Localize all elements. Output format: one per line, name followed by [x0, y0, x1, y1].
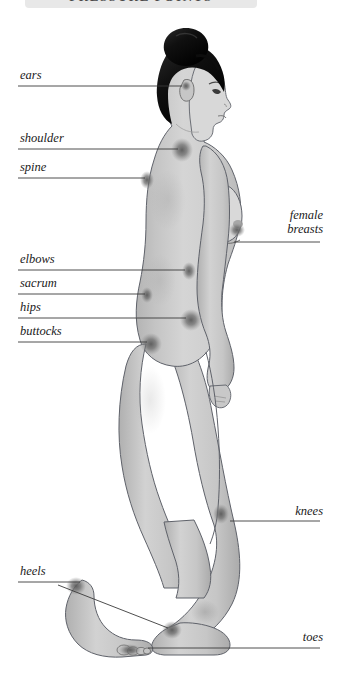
label-hips: hips	[20, 300, 41, 314]
female-figure-illustration: g[data-name="pressure-point-marks"] elli…	[0, 0, 337, 690]
point-elbow	[182, 262, 196, 280]
point-toes	[119, 644, 141, 656]
label-shoulder: shoulder	[20, 131, 64, 145]
figure-body-group: g[data-name="pressure-point-marks"] elli…	[66, 28, 246, 657]
rear-ankle-shade	[191, 600, 219, 624]
pressure-points-illustration-page: PRESSURE POINTS	[0, 0, 337, 690]
label-sacrum: sacrum	[20, 276, 57, 290]
point-breast	[229, 223, 245, 237]
point-heel-front	[66, 577, 86, 595]
label-female-breasts: female breasts	[287, 208, 323, 237]
label-knees: knees	[295, 504, 323, 518]
point-buttock	[140, 333, 162, 355]
label-elbows: elbows	[20, 252, 55, 266]
point-heel-rear	[162, 621, 182, 639]
chest-shade	[150, 170, 186, 230]
point-spine	[140, 171, 154, 189]
label-toes: toes	[303, 630, 323, 644]
label-buttocks: buttocks	[20, 324, 62, 338]
label-ears: ears	[20, 68, 42, 82]
point-shoulder	[171, 138, 193, 162]
thigh-shade	[134, 366, 166, 434]
point-knee	[213, 504, 229, 524]
point-sacrum	[141, 287, 153, 303]
point-hip	[180, 309, 202, 331]
point-ear	[181, 81, 191, 91]
label-heels: heels	[20, 564, 46, 578]
label-female-breasts-line2: breasts	[287, 222, 323, 236]
label-spine: spine	[20, 160, 46, 174]
label-female-breasts-line1: female	[287, 208, 323, 222]
hand	[209, 385, 231, 408]
